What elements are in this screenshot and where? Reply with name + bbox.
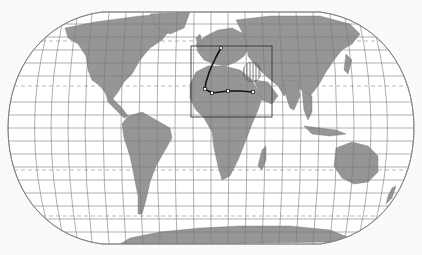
- waypoint: [204, 88, 207, 91]
- waypoint: [211, 92, 214, 95]
- waypoint: [227, 90, 230, 93]
- waypoint-start: [219, 46, 222, 49]
- waypoint-end: [252, 91, 255, 94]
- world-map[interactable]: [0, 0, 422, 255]
- hatched-region: [243, 62, 261, 82]
